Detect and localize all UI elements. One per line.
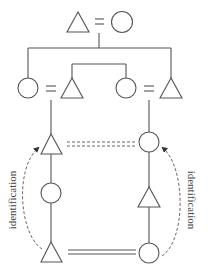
marriage-equals-icon — [144, 86, 154, 91]
female-circle-icon — [116, 78, 136, 98]
female-circle-icon — [41, 183, 61, 203]
male-triangle-icon — [41, 134, 62, 154]
female-circle-icon — [112, 12, 133, 33]
kinship-diagram: identification identification — [0, 0, 208, 271]
dashed-double-marriage-line — [67, 142, 136, 146]
male-triangle-icon — [41, 242, 62, 262]
gen1-couple — [67, 12, 133, 33]
left-identification-label: identification — [6, 170, 18, 229]
female-circle-icon — [18, 78, 38, 98]
right-identification-label: identification — [186, 171, 198, 230]
marriage-equals-icon — [95, 19, 104, 24]
male-triangle-icon — [160, 78, 182, 98]
gen2-right-couple — [116, 78, 182, 98]
left-column — [41, 100, 62, 262]
descent-lines — [28, 33, 171, 78]
male-triangle-icon — [138, 187, 160, 207]
female-circle-icon — [139, 243, 159, 263]
male-triangle-icon — [67, 12, 89, 32]
marriage-equals-icon — [46, 86, 56, 91]
right-identification-arc — [162, 148, 180, 256]
female-circle-icon — [139, 132, 159, 152]
gen2-left-couple — [18, 78, 83, 98]
left-identification-arc — [23, 148, 42, 249]
male-triangle-icon — [61, 78, 83, 98]
solid-double-marriage-line — [68, 250, 136, 254]
right-column — [138, 100, 160, 263]
